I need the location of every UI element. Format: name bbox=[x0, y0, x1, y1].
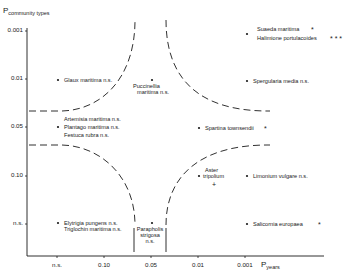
plus-mark: + bbox=[212, 181, 216, 188]
significance-mark: * bbox=[318, 221, 321, 228]
y-axis-title: Pcommunity types bbox=[3, 6, 50, 16]
point-spergularia bbox=[246, 80, 248, 82]
point-salicornia bbox=[246, 223, 248, 225]
significance-mark: * * * bbox=[330, 35, 342, 42]
y-ticks: 0.001 0.01 0.05 0.10 n.s. bbox=[8, 26, 27, 226]
label-suaeda: Suaeda maritima bbox=[257, 26, 300, 32]
significance-mark: * bbox=[264, 125, 267, 132]
point-artemisia-plantago-festuca bbox=[57, 126, 59, 128]
label-festuca: Festuca rubra n.s. bbox=[64, 132, 110, 138]
y-tick-label: 0.001 bbox=[8, 26, 24, 33]
y-tick-label: 0.05 bbox=[11, 122, 24, 129]
x-ticks: n.s. 0.10 0.05 0.01 0.001 bbox=[52, 256, 253, 268]
point-glaux bbox=[57, 79, 59, 81]
point-limonium bbox=[246, 175, 248, 177]
significance-mark: * bbox=[311, 26, 314, 33]
x-axis-title: Pyears bbox=[261, 260, 280, 270]
point-suaeda-halimione bbox=[246, 33, 248, 35]
x-tick-label: 0.05 bbox=[145, 261, 158, 268]
label-halimione: Halimione portulacoides bbox=[257, 35, 317, 41]
x-tick-label: n.s. bbox=[52, 261, 62, 268]
scatter-chart: Pcommunity types 0.001 0.01 0.05 0.10 n.… bbox=[0, 0, 356, 277]
point-puccinellia bbox=[151, 79, 153, 81]
label-plantago: Plantago maritima n.s. bbox=[64, 124, 120, 130]
x-tick-label: 0.01 bbox=[192, 261, 205, 268]
label-spergularia: Spergularia media n.s. bbox=[253, 78, 309, 84]
y-tick-label: n.s. bbox=[13, 219, 23, 226]
label-glaux: Glaux maritima n.s. bbox=[64, 77, 113, 83]
data-points: Suaeda maritima * Halimione portulacoide… bbox=[57, 26, 342, 244]
x-tick-label: 0.001 bbox=[237, 261, 253, 268]
label-parapholis: n.s. bbox=[145, 238, 154, 244]
label-puccinellia: maritima n.s. bbox=[137, 89, 169, 95]
label-salicornia: Salicornia europaea bbox=[253, 221, 304, 227]
point-spartina bbox=[198, 127, 200, 129]
point-elytrigia-triglochin bbox=[57, 222, 59, 224]
label-artemisia: Artemisia maritima n.s. bbox=[64, 116, 121, 122]
label-triglochin: Triglochin maritima n.s. bbox=[64, 226, 122, 232]
label-aster: tripolium bbox=[203, 173, 224, 179]
label-spartina: Spartina townsendii bbox=[205, 125, 254, 131]
point-aster bbox=[198, 175, 200, 177]
y-tick-label: 0.01 bbox=[11, 74, 24, 81]
y-tick-label: 0.10 bbox=[11, 171, 24, 178]
x-tick-label: 0.10 bbox=[98, 261, 111, 268]
point-parapholis bbox=[151, 222, 153, 224]
label-limonium: Limonium vulgare n.s. bbox=[253, 173, 308, 179]
